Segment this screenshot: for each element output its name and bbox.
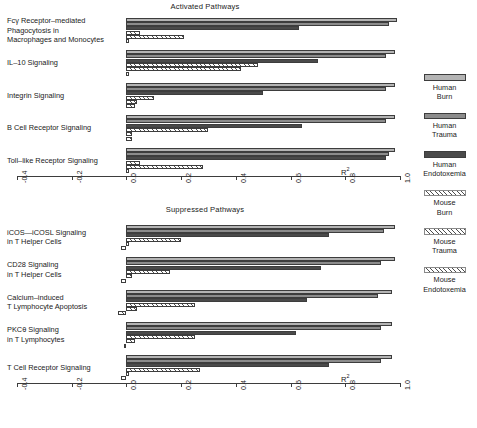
x-tick-label: -0.4 bbox=[20, 171, 29, 183]
x-tick-label: 0.6 bbox=[294, 173, 303, 183]
bar-track bbox=[17, 287, 400, 318]
legend-label-human-burn: HumanBurn bbox=[412, 83, 477, 102]
bar-mouse-endotoxemia bbox=[124, 344, 127, 348]
legend-swatch-human-burn bbox=[424, 74, 466, 81]
bar-mouse-endotoxemia bbox=[121, 279, 126, 283]
pathway-group: Fcγ Receptor–mediatedPhagocytosis inMacr… bbox=[0, 15, 410, 46]
x-tick-label: -0.4 bbox=[20, 378, 29, 390]
legend-label-line: Burn bbox=[412, 208, 477, 217]
x-tick-label: 1.0 bbox=[403, 173, 412, 183]
x-tick-label: -0.2 bbox=[75, 171, 84, 183]
x-tick bbox=[291, 176, 292, 180]
legend-label-mouse-endotoxemia: MouseEndotoxemia bbox=[412, 275, 477, 294]
x-axis-label-suppressed: R2 bbox=[341, 373, 349, 384]
bar-mouse-endotoxemia bbox=[126, 39, 128, 43]
chart-panel-suppressed: Suppressed Pathways iCOS—iCOSL Signaling… bbox=[0, 203, 410, 428]
legend-item-mouse-burn[interactable]: MouseBurn bbox=[412, 190, 477, 217]
x-tick-label: 0.8 bbox=[348, 173, 357, 183]
bar-mouse-trauma bbox=[126, 307, 137, 311]
legend-item-mouse-endotoxemia[interactable]: MouseEndotoxemia bbox=[412, 267, 477, 294]
x-tick bbox=[72, 176, 73, 180]
legend-label-line: Burn bbox=[412, 92, 477, 101]
chart-title-suppressed: Suppressed Pathways bbox=[0, 205, 410, 214]
x-tick-label: 1.0 bbox=[403, 380, 412, 390]
figure-root: Activated Pathways Fcγ Receptor–mediated… bbox=[0, 0, 477, 428]
chart-title-activated: Activated Pathways bbox=[0, 2, 410, 11]
legend-label-line: Trauma bbox=[412, 246, 477, 255]
legend-label-line: Mouse bbox=[412, 275, 477, 284]
x-tick bbox=[72, 383, 73, 387]
legend-label-line: Human bbox=[412, 160, 477, 169]
x-tick bbox=[17, 383, 18, 387]
legend-item-mouse-trauma[interactable]: MouseTrauma bbox=[412, 228, 477, 255]
x-tick-label: -0.2 bbox=[75, 378, 84, 390]
legend-label-line: Human bbox=[412, 121, 477, 130]
x-tick-label: 0.6 bbox=[294, 380, 303, 390]
x-tick bbox=[236, 383, 237, 387]
bar-mouse-trauma bbox=[126, 274, 131, 278]
bar-mouse-burn bbox=[126, 335, 194, 339]
bar-mouse-endotoxemia bbox=[126, 72, 128, 76]
x-tick bbox=[181, 383, 182, 387]
bar-mouse-burn bbox=[126, 238, 181, 242]
x-tick-label: 0.0 bbox=[129, 173, 138, 183]
bar-mouse-endotoxemia bbox=[126, 137, 131, 141]
bar-mouse-trauma bbox=[126, 242, 128, 246]
pathway-group: IL–10 Signaling bbox=[0, 48, 410, 79]
x-tick bbox=[236, 176, 237, 180]
legend-item-human-burn[interactable]: HumanBurn bbox=[412, 74, 477, 101]
legend-swatch-mouse-burn bbox=[424, 190, 466, 197]
x-tick bbox=[17, 176, 18, 180]
bar-mouse-trauma bbox=[126, 339, 134, 343]
x-tick bbox=[345, 383, 346, 387]
legend-swatch-human-trauma bbox=[424, 113, 466, 120]
legend-label-line: Mouse bbox=[412, 198, 477, 207]
bar-mouse-endotoxemia bbox=[121, 246, 126, 250]
x-tick bbox=[400, 176, 401, 180]
x-tick bbox=[181, 176, 182, 180]
bar-mouse-burn bbox=[126, 368, 200, 372]
bar-mouse-trauma bbox=[126, 67, 241, 71]
pathway-group: B Cell Receptor Signaling bbox=[0, 113, 410, 144]
x-tick bbox=[126, 176, 127, 180]
bar-track bbox=[17, 255, 400, 286]
legend-swatch-mouse-endotoxemia bbox=[424, 267, 466, 274]
bar-human-endotoxemia bbox=[126, 26, 298, 30]
bar-track bbox=[17, 113, 400, 144]
bar-mouse-burn bbox=[126, 270, 170, 274]
x-tick-label: 0.4 bbox=[239, 173, 248, 183]
legend-item-human-trauma[interactable]: HumanTrauma bbox=[412, 113, 477, 140]
bar-mouse-endotoxemia bbox=[118, 311, 126, 315]
x-tick-label: 0.2 bbox=[184, 173, 193, 183]
bar-human-endotoxemia bbox=[126, 156, 386, 160]
x-tick bbox=[126, 383, 127, 387]
x-tick bbox=[345, 176, 346, 180]
plot-area-activated: Fcγ Receptor–mediatedPhagocytosis inMacr… bbox=[0, 14, 410, 174]
legend-label-line: Human bbox=[412, 83, 477, 92]
bar-mouse-trauma bbox=[126, 165, 203, 169]
bar-mouse-trauma bbox=[126, 35, 183, 39]
legend-label-human-trauma: HumanTrauma bbox=[412, 121, 477, 140]
pathway-group: Integrin Signaling bbox=[0, 80, 410, 111]
bar-track bbox=[17, 80, 400, 111]
legend-label-line: Endotoxemia bbox=[412, 285, 477, 294]
x-tick-label: 0.2 bbox=[184, 380, 193, 390]
legend-label-mouse-trauma: MouseTrauma bbox=[412, 237, 477, 256]
legend-label-line: Mouse bbox=[412, 237, 477, 246]
pathway-group: Calcium–inducedT Lymphocyte Apoptosis bbox=[0, 287, 410, 318]
legend-label-mouse-burn: MouseBurn bbox=[412, 198, 477, 217]
bar-mouse-endotoxemia bbox=[126, 104, 134, 108]
x-axis-label-activated: R2 bbox=[341, 166, 349, 177]
x-tick-label: 0.8 bbox=[348, 380, 357, 390]
bar-mouse-burn bbox=[126, 128, 208, 132]
bar-mouse-endotoxemia bbox=[121, 376, 126, 380]
pathway-group: iCOS—iCOSL Signalingin T Helper Cells bbox=[0, 222, 410, 253]
x-tick-label: 0.0 bbox=[129, 380, 138, 390]
x-tick-label: 0.4 bbox=[239, 380, 248, 390]
bar-track bbox=[17, 320, 400, 351]
legend-swatch-human-endotoxemia bbox=[424, 151, 466, 158]
bar-track bbox=[17, 15, 400, 46]
plot-area-suppressed: iCOS—iCOSL Signalingin T Helper CellsCD2… bbox=[0, 217, 410, 377]
x-tick bbox=[291, 383, 292, 387]
legend-item-human-endotoxemia[interactable]: HumanEndotoxemia bbox=[412, 151, 477, 178]
